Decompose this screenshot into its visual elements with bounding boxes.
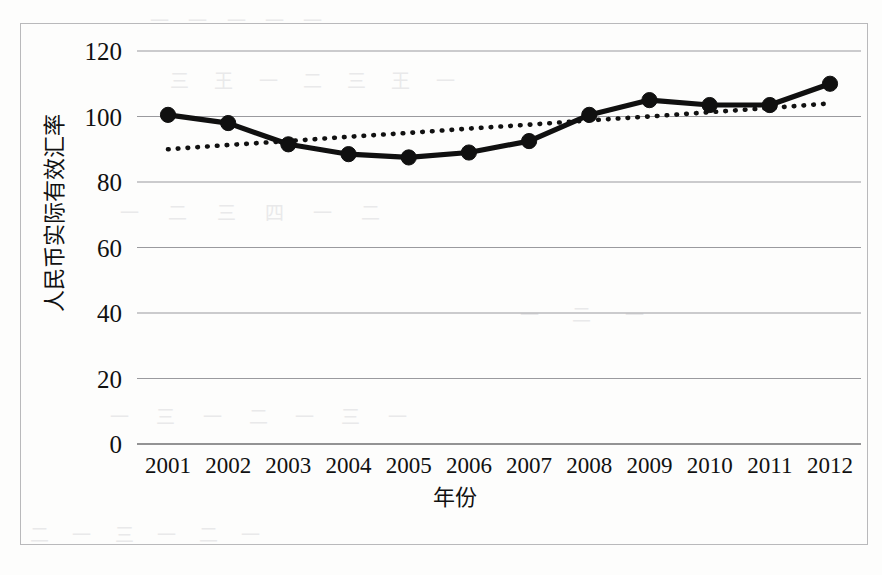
x-axis-tick-label: 2007	[506, 453, 552, 478]
y-axis-tick-label: 0	[110, 431, 123, 458]
y-axis-tick-label: 80	[97, 169, 122, 196]
x-axis-tick-label: 2008	[566, 453, 612, 478]
y-axis-tick-label: 60	[97, 235, 122, 262]
x-axis-tick-label: 2006	[446, 453, 492, 478]
x-axis-tick-label: 2002	[205, 453, 251, 478]
x-axis-title: 年份	[433, 485, 477, 510]
line-chart: 020406080100120 200120022003200420052006…	[0, 0, 882, 575]
y-axis-tick-label: 100	[85, 104, 123, 131]
data-point-marker	[341, 147, 356, 162]
data-point-marker	[160, 107, 175, 122]
data-point-marker	[702, 97, 717, 112]
y-axis-title: 人民币实际有效汇率	[42, 114, 67, 312]
data-point-marker	[762, 97, 777, 112]
y-axis-tick-labels: 020406080100120	[85, 38, 123, 458]
data-point-marker	[461, 145, 476, 160]
x-axis-tick-label: 2011	[747, 453, 792, 478]
data-point-marker	[822, 76, 837, 91]
data-point-marker	[642, 93, 657, 108]
y-axis-tick-label: 120	[85, 38, 123, 65]
gridlines	[137, 51, 861, 444]
x-axis-tick-label: 2003	[265, 453, 311, 478]
x-axis-tick-label: 2010	[687, 453, 733, 478]
trendline-series	[168, 103, 830, 149]
data-point-marker	[521, 133, 536, 148]
x-axis-tick-label: 2012	[807, 453, 853, 478]
x-axis-tick-label: 2009	[626, 453, 672, 478]
x-axis-tick-label: 2005	[386, 453, 432, 478]
data-point-marker	[582, 107, 597, 122]
data-point-marker	[401, 150, 416, 165]
data-point-marker	[221, 115, 236, 130]
data-point-marker	[281, 137, 296, 152]
x-axis-tick-label: 2004	[326, 453, 373, 478]
chart-svg: 020406080100120 200120022003200420052006…	[0, 0, 882, 575]
y-axis-tick-label: 40	[97, 300, 122, 327]
x-axis-tick-label: 2001	[145, 453, 191, 478]
y-axis-tick-label: 20	[97, 366, 122, 393]
data-series-line	[168, 84, 830, 158]
x-axis-tick-labels: 2001200220032004200520062007200820092010…	[145, 453, 853, 478]
data-point-markers	[160, 76, 837, 165]
